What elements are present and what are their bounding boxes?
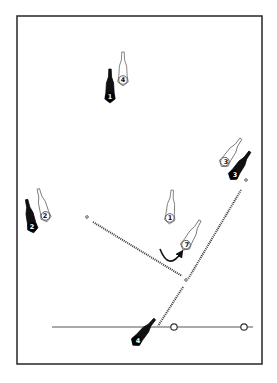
player-number: 3 xyxy=(224,158,229,166)
player-number: 2 xyxy=(30,223,35,231)
defender-4-bottom: 4 xyxy=(129,316,160,349)
player-number: 1 xyxy=(168,214,173,222)
movement-arc xyxy=(160,249,181,261)
player-number: 7 xyxy=(185,241,190,249)
attacker-7: 7 xyxy=(178,218,204,253)
play-lines xyxy=(52,190,253,327)
player-number: 1 xyxy=(108,93,113,101)
player-number: 4 xyxy=(121,76,126,84)
player-number: 3 xyxy=(233,171,238,179)
attacker-4-top: 4 xyxy=(118,52,128,86)
attacker-2: 2 xyxy=(33,188,52,224)
court-markers xyxy=(86,179,248,330)
play-diagram: 413322174 xyxy=(0,0,277,383)
baseline-circle-1 xyxy=(171,324,177,330)
attacker-1-mid: 1 xyxy=(164,190,177,225)
pass-line-left xyxy=(93,222,182,276)
start-dot-left xyxy=(86,216,89,219)
player-number: 4 xyxy=(136,337,141,345)
baseline-circle-2 xyxy=(241,324,247,330)
player-number: 2 xyxy=(43,212,48,220)
court-frame xyxy=(17,16,262,364)
junction-dot xyxy=(185,279,188,282)
pass-line-bottom xyxy=(158,287,183,326)
defender-2: 2 xyxy=(22,198,39,233)
start-dot-right xyxy=(245,179,248,182)
players-layer: 413322174 xyxy=(22,52,255,349)
defender-1: 1 xyxy=(105,69,115,103)
